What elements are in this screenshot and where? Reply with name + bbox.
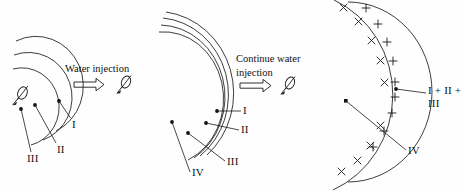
panel1-block-arrow-icon bbox=[74, 78, 104, 90]
panel2-caption-line2: injection bbox=[236, 66, 273, 79]
panel1-label-I: I bbox=[72, 118, 76, 131]
figure-canvas: .ln{fill:none;stroke:#1a1a1a;stroke-widt… bbox=[0, 0, 463, 193]
panel2-block-arrow-icon bbox=[240, 79, 271, 91]
panel3-cross-marks bbox=[338, 4, 388, 175]
panel2-label-II: II bbox=[241, 123, 249, 136]
panel1-label-II: II bbox=[57, 143, 65, 156]
panel2-label-III: III bbox=[227, 155, 239, 168]
panel3-label-IV: IV bbox=[408, 144, 420, 157]
panel2-label-I: I bbox=[243, 104, 247, 117]
panel3-band bbox=[333, 0, 432, 190]
panel3-leaders bbox=[344, 87, 426, 150]
panel2-arcs bbox=[159, 12, 234, 160]
panel1-label-III: III bbox=[27, 152, 39, 165]
panel2-caption-line1: Continue water bbox=[236, 52, 300, 65]
panel1-result-well-icon bbox=[117, 75, 133, 94]
panel2-label-IV: IV bbox=[192, 166, 204, 179]
panel1-well-icon bbox=[12, 85, 29, 105]
panel3-merged-label-line1: I + II + bbox=[428, 84, 461, 97]
panel3-merged-label-line2: III bbox=[428, 97, 440, 110]
panel1-caption: Water injection bbox=[65, 62, 129, 75]
panel2-result-well-icon bbox=[281, 76, 297, 95]
